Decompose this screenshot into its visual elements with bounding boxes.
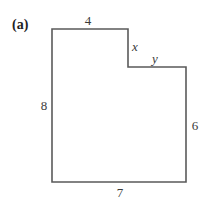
l-shape-diagram: (a) 4 x y 8 6 7	[0, 0, 206, 205]
label-left-side: 8	[41, 98, 48, 113]
label-bottom-side: 7	[117, 185, 124, 200]
label-notch-vertical: x	[131, 39, 138, 54]
label-right-side: 6	[192, 118, 199, 133]
label-top-side: 4	[85, 13, 92, 28]
panel-label: (a)	[12, 17, 29, 33]
l-shape-outline	[52, 29, 186, 182]
label-notch-horizontal: y	[150, 51, 158, 66]
